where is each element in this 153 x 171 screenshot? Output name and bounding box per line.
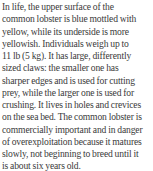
paragraph-lobster-description: In life, the upper surface of the common… [2,1,153,156]
text-line: In life, the upper surface of the [2,1,153,13]
text-line: common lobster is blue mottled with [2,13,153,25]
text-line: crushing. It lives in holes and crevices [2,99,153,111]
text-line: sharper edges and is used for cutting [2,75,153,87]
text-line: sized claws: the smaller one has [2,62,153,74]
text-line: prey, while the larger one is used for [2,87,153,99]
text-line: on the sea bed. The common lobster is [2,111,153,123]
text-line: yellow, while its underside is more [2,26,153,38]
text-line: 11 lb (5 kg). It has large, differently [2,50,153,62]
text-line: of overexploitation because it matures [2,136,153,148]
text-line: yellowish. Individuals weigh up to [2,38,153,50]
text-line: commercially important and in danger [2,124,153,136]
text-line: slowly, not beginning to breed until it [2,148,153,156]
